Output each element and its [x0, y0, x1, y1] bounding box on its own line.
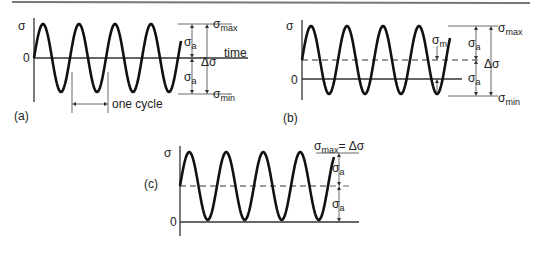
panel-c-sigma-a-lower: σa [332, 197, 344, 213]
panel-c-zero-label: 0 [170, 215, 177, 229]
panel-a-sigma-min: σmin [213, 87, 235, 103]
panel-b-zero-label: 0 [291, 73, 298, 87]
panel-a-zero-label: 0 [23, 51, 30, 65]
panel-a-delta-sigma: Δσ [201, 55, 217, 69]
panel-c-sigma-a-upper: σa [332, 161, 344, 177]
panel-c-sigma-label: σ [164, 146, 172, 160]
panel-a-label: (a) [14, 109, 29, 123]
panel-b-sigma-a-lower: σa [468, 71, 480, 87]
panel-c: σ 0 (c) σa σa σmax= Δσ [144, 139, 365, 236]
panel-a-sigma-a-lower: σa [184, 70, 196, 86]
panel-c-sigma-max-eq: σmax= Δσ [314, 139, 365, 155]
panel-b-sigma-min: σmin [498, 91, 520, 107]
panel-a: σ 0 σa σa Δσ σmax σmin time one cycle (a… [14, 17, 248, 123]
panel-a-sigma-label: σ [18, 19, 26, 33]
panel-b: σ 0 σm σa σa Δσ σmax σmin (b) [283, 19, 523, 125]
panel-b-sigma-max: σmax [498, 21, 523, 37]
panel-a-time-label: time [224, 46, 247, 60]
panel-c-label: (c) [144, 177, 158, 191]
panel-b-sigma-m: σm [432, 33, 447, 49]
panel-b-label: (b) [283, 111, 298, 125]
cyclic-stress-diagram: σ 0 σa σa Δσ σmax σmin time one cycle (a… [0, 0, 536, 253]
panel-a-sigma-max: σmax [213, 17, 238, 33]
panel-b-sigma-a-upper: σa [468, 36, 480, 52]
panel-b-sigma-label: σ [286, 19, 294, 33]
panel-a-sigma-a-upper: σa [184, 35, 196, 51]
panel-a-cycle-label: one cycle [112, 97, 163, 111]
top-rule [12, 2, 530, 3]
panel-b-delta-sigma: Δσ [484, 57, 500, 71]
